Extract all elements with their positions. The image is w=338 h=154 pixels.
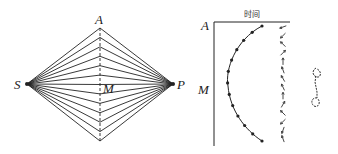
point-p bbox=[171, 82, 175, 86]
point-s bbox=[25, 82, 29, 86]
label-s: S bbox=[14, 77, 21, 92]
label-p: P bbox=[176, 77, 185, 92]
squiggle-path bbox=[312, 68, 321, 106]
label-m-left: M bbox=[102, 81, 115, 96]
time-frame bbox=[214, 22, 290, 146]
time-axis-title: 时间 bbox=[244, 9, 260, 19]
ray-diagram bbox=[27, 28, 173, 141]
trajectory-curve bbox=[227, 26, 262, 141]
label-a-left: A bbox=[94, 12, 103, 27]
arrow-column bbox=[280, 26, 287, 142]
label-a-right: A bbox=[200, 18, 209, 33]
trajectory-points bbox=[226, 24, 264, 142]
label-m-right: M bbox=[197, 82, 210, 97]
diagram-canvas: A S P M 时间 A M bbox=[0, 0, 338, 154]
